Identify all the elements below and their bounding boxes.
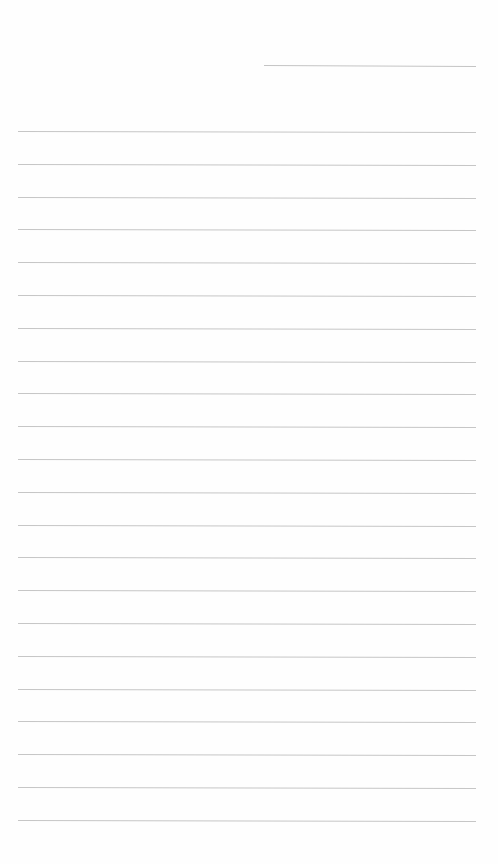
ruled-line [18, 656, 476, 658]
ruled-line [18, 229, 476, 231]
ruled-line [18, 131, 476, 133]
ruled-line [18, 459, 476, 461]
ruled-line [18, 721, 476, 723]
ruled-line [18, 426, 476, 428]
ruled-line [18, 820, 476, 822]
ruled-line [18, 754, 476, 756]
ruled-line [18, 557, 476, 559]
ruled-page [0, 0, 498, 864]
ruled-line [18, 262, 476, 264]
ruled-line [18, 689, 476, 691]
ruled-line [18, 525, 476, 527]
ruled-line [18, 393, 476, 395]
ruled-line [18, 361, 476, 363]
ruled-line [18, 328, 476, 330]
header-write-line [264, 65, 476, 67]
ruled-line [18, 197, 476, 199]
ruled-line [18, 787, 476, 789]
ruled-line [18, 590, 476, 592]
ruled-line [18, 164, 476, 166]
ruled-line [18, 492, 476, 494]
ruled-line [18, 623, 476, 625]
ruled-line [18, 295, 476, 297]
